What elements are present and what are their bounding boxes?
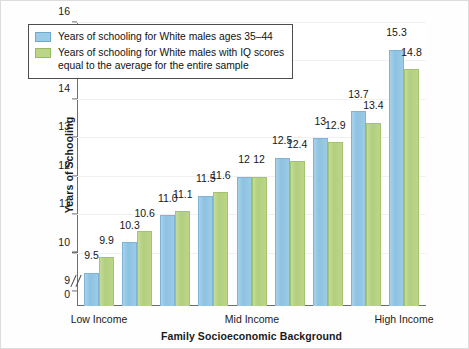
legend-label-blue: Years of schooling for White males ages … xyxy=(58,30,273,43)
bar-blue xyxy=(198,196,213,306)
bar-wrapper: 13 xyxy=(313,23,328,306)
legend-item-green: Years of schooling for White males with … xyxy=(35,46,284,72)
bar-green xyxy=(366,123,381,306)
y-tick-label: 16 xyxy=(58,5,77,17)
bar-value-label: 12 xyxy=(238,154,250,166)
bar-value-label: 12 xyxy=(253,154,265,166)
y-tick-label: 10 xyxy=(58,236,77,248)
bar-wrapper: 14.8 xyxy=(404,23,419,306)
bar-green xyxy=(252,177,267,306)
bar-green xyxy=(137,231,152,306)
bar-value-label: 10.6 xyxy=(134,208,154,220)
legend-swatch-blue-icon xyxy=(35,32,51,42)
y-tick-label-zero: 0 xyxy=(64,288,77,300)
legend-label-green-line1: Years of schooling for White males with … xyxy=(58,47,284,58)
bar-value-label: 9.9 xyxy=(99,234,114,246)
bar-blue xyxy=(389,50,404,306)
bar-value-label: 11.1 xyxy=(173,188,193,200)
bar-wrapper: 15.3 xyxy=(389,23,404,306)
legend-label-green-line2: equal to the average for the entire samp… xyxy=(58,60,249,71)
bar-blue xyxy=(313,138,328,306)
bar-wrapper: 12.9 xyxy=(328,23,343,306)
x-category-label: Mid Income xyxy=(225,313,279,325)
bar-value-label: 12.9 xyxy=(325,119,345,131)
legend-label-green: Years of schooling for White males with … xyxy=(58,46,284,72)
chart-legend: Years of schooling for White males ages … xyxy=(28,24,293,79)
bar-value-label: 11.6 xyxy=(211,169,231,181)
legend-swatch-green-icon xyxy=(35,48,51,58)
bar-value-label: 12.4 xyxy=(287,138,307,150)
bar-wrapper: 13.4 xyxy=(366,23,381,306)
bar-blue xyxy=(237,177,252,306)
bar-green xyxy=(175,211,190,306)
bar-blue xyxy=(122,242,137,306)
y-tick-label: 9 xyxy=(64,274,77,286)
bar-green xyxy=(290,161,305,306)
bar-group: 15.314.8 xyxy=(389,23,419,306)
x-category-label: High Income xyxy=(375,313,434,325)
bar-green xyxy=(99,257,114,306)
bar-group: 13.713.4 xyxy=(351,23,381,306)
bar-green xyxy=(213,192,228,306)
x-category-label: Low Income xyxy=(71,313,128,325)
bar-blue xyxy=(84,273,99,306)
bar-wrapper: 13.7 xyxy=(351,23,366,306)
bar-value-label: 9.5 xyxy=(84,250,99,262)
bar-value-label: 13.4 xyxy=(363,100,383,112)
y-axis-title: Years of Schooling xyxy=(63,116,75,212)
legend-item-blue: Years of schooling for White males ages … xyxy=(35,30,284,43)
y-tick-label: 14 xyxy=(58,82,77,94)
bar-value-label: 14.8 xyxy=(401,46,421,58)
bar-blue xyxy=(160,215,175,306)
bar-group: 1312.9 xyxy=(313,23,343,306)
x-axis-title: Family Socioeconomic Background xyxy=(161,330,342,342)
bar-green xyxy=(328,142,343,306)
chart-page: 9101112131415160 Years of Schooling 9.59… xyxy=(0,0,469,349)
bar-green xyxy=(404,69,419,306)
bar-blue xyxy=(351,111,366,306)
bar-blue xyxy=(275,158,290,307)
